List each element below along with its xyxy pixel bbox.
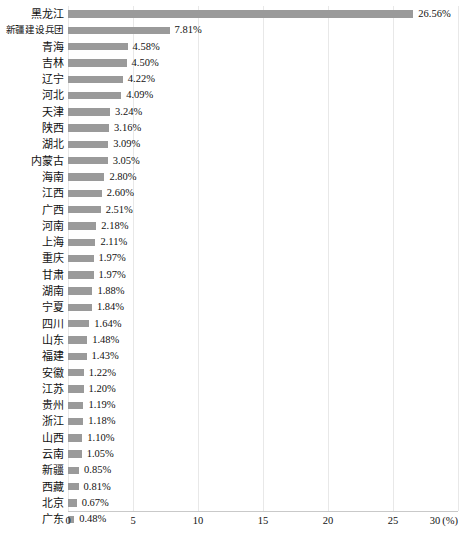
bar-row: 吉林4.50%: [0, 55, 468, 71]
category-label: 江西: [42, 185, 64, 201]
bar-track: 2.18%: [68, 218, 468, 234]
category-label: 海南: [42, 169, 64, 185]
bar-value-label: 3.24%: [115, 104, 142, 120]
bar-row: 陕西3.16%: [0, 120, 468, 136]
bar-row: 新疆0.85%: [0, 462, 468, 478]
category-label: 吉林: [42, 55, 64, 71]
bar-track: 2.60%: [68, 185, 468, 201]
category-label: 贵州: [42, 397, 64, 413]
bar: [68, 157, 108, 164]
bar-value-label: 0.67%: [82, 495, 109, 511]
bar-row: 山西1.10%: [0, 430, 468, 446]
category-label: 西藏: [42, 479, 64, 495]
bar-row: 辽宁4.22%: [0, 71, 468, 87]
bar-row: 江西2.60%: [0, 185, 468, 201]
bar-value-label: 2.51%: [106, 202, 133, 218]
bar-track: 2.80%: [68, 169, 468, 185]
bar: [68, 27, 170, 34]
bar-value-label: 1.18%: [88, 413, 115, 429]
category-label: 山西: [42, 430, 64, 446]
bar-row: 贵州1.19%: [0, 397, 468, 413]
bar: [68, 450, 82, 457]
bar-value-label: 1.97%: [99, 267, 126, 283]
bar-row: 青海4.58%: [0, 39, 468, 55]
bar-value-label: 26.56%: [418, 6, 450, 22]
bar-track: 3.09%: [68, 136, 468, 152]
bar: [68, 190, 102, 197]
category-label: 黑龙江: [31, 6, 64, 22]
bar-row: 宁夏1.84%: [0, 299, 468, 315]
bar-row: 浙江1.18%: [0, 413, 468, 429]
x-tick-label: 0: [65, 513, 70, 529]
bar: [68, 483, 79, 490]
category-label: 辽宁: [42, 71, 64, 87]
bar-value-label: 3.09%: [113, 136, 140, 152]
category-label: 天津: [42, 104, 64, 120]
bar-value-label: 2.80%: [109, 169, 136, 185]
bar-row: 黑龙江26.56%: [0, 6, 468, 22]
category-label: 新疆: [42, 462, 64, 478]
bar-row: 天津3.24%: [0, 104, 468, 120]
bar: [68, 76, 123, 83]
bar: [68, 402, 83, 409]
category-label: 新疆建设兵团: [6, 22, 64, 38]
bar: [68, 255, 94, 262]
category-label: 河北: [42, 87, 64, 103]
bar: [68, 467, 79, 474]
bar: [68, 141, 108, 148]
bar-track: 1.88%: [68, 283, 468, 299]
bar-row: 新疆建设兵团7.81%: [0, 22, 468, 38]
category-label: 重庆: [42, 250, 64, 266]
category-label: 安徽: [42, 365, 64, 381]
category-label: 四川: [42, 316, 64, 332]
bar-value-label: 1.84%: [97, 299, 124, 315]
bar: [68, 287, 92, 294]
bar: [68, 92, 121, 99]
bar-row: 河北4.09%: [0, 87, 468, 103]
bar-value-label: 1.48%: [92, 332, 119, 348]
bar-track: 4.50%: [68, 55, 468, 71]
bar-track: 4.22%: [68, 71, 468, 87]
bar-track: 3.05%: [68, 153, 468, 169]
bar: [68, 499, 77, 506]
category-label: 广西: [42, 202, 64, 218]
bar: [68, 59, 127, 66]
bar-value-label: 1.20%: [89, 381, 116, 397]
bar: [68, 206, 101, 213]
category-label: 江苏: [42, 381, 64, 397]
bar-row: 湖南1.88%: [0, 283, 468, 299]
bar-track: 3.16%: [68, 120, 468, 136]
bar: [68, 43, 128, 50]
bar-track: 1.20%: [68, 381, 468, 397]
bar-row: 湖北3.09%: [0, 136, 468, 152]
bar-track: 26.56%: [68, 6, 468, 22]
bar-row: 河南2.18%: [0, 218, 468, 234]
bar-track: 0.81%: [68, 479, 468, 495]
bar-track: 4.09%: [68, 87, 468, 103]
bar-track: 1.97%: [68, 267, 468, 283]
bar-value-label: 0.81%: [84, 479, 111, 495]
category-label: 内蒙古: [31, 153, 64, 169]
bar-track: 1.18%: [68, 413, 468, 429]
x-tick-label: 15: [258, 513, 269, 529]
x-tick-label: 30(%): [430, 513, 458, 529]
bar-value-label: 4.50%: [132, 55, 159, 71]
category-label: 上海: [42, 234, 64, 250]
bar-value-label: 7.81%: [175, 22, 202, 38]
category-label: 山东: [42, 332, 64, 348]
category-label: 青海: [42, 39, 64, 55]
bar-track: 1.19%: [68, 397, 468, 413]
category-label: 宁夏: [42, 299, 64, 315]
bar-row: 安徽1.22%: [0, 365, 468, 381]
bar: [68, 10, 413, 17]
horizontal-bar-chart: 黑龙江26.56%新疆建设兵团7.81%青海4.58%吉林4.50%辽宁4.22…: [0, 0, 468, 549]
bar-value-label: 2.60%: [107, 185, 134, 201]
bar-value-label: 4.22%: [128, 71, 155, 87]
bar-row: 江苏1.20%: [0, 381, 468, 397]
bar-value-label: 4.09%: [126, 87, 153, 103]
bar-value-label: 1.88%: [97, 283, 124, 299]
category-label: 云南: [42, 446, 64, 462]
bar-value-label: 4.58%: [133, 39, 160, 55]
bar: [68, 385, 84, 392]
bar-value-label: 1.22%: [89, 365, 116, 381]
